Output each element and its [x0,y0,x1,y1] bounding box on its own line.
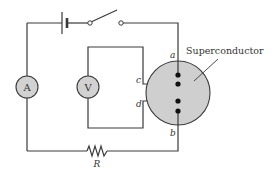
node-c-label: c [136,75,141,85]
node-d-label: d [136,99,142,109]
wire-bottom [27,111,178,151]
voltmeter: V [77,76,99,98]
resistor-symbol [87,146,107,156]
resistor-label: R [93,159,101,169]
superconductor-label: Superconductor [186,45,264,56]
node-d [175,98,180,103]
node-a [175,72,180,77]
node-b [175,108,180,113]
battery-symbol [62,12,67,34]
node-b-label: b [170,128,176,138]
circuit-diagram: R A V a c d b Superconductor [0,0,275,176]
voltmeter-label: V [83,82,92,93]
node-a-label: a [170,50,175,60]
node-c [175,81,180,86]
switch-symbol [88,10,123,25]
ammeter: A [16,76,38,98]
ammeter-label: A [22,82,31,93]
